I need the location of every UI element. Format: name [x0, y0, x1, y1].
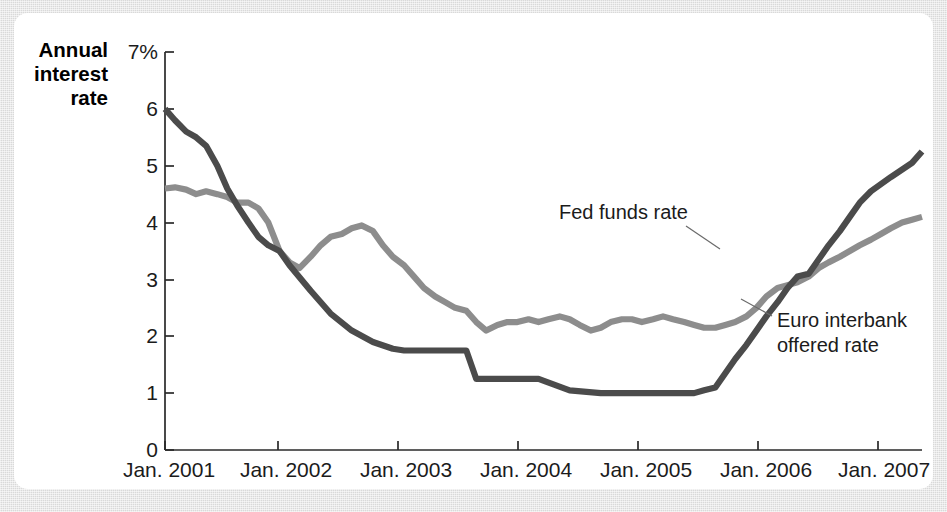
annotation-euro-interbank-line-2: offered rate: [777, 334, 879, 356]
x-tick-label-2004: Jan. 2004: [480, 458, 573, 481]
x-tick-label-2007: Jan. 2007: [838, 458, 930, 481]
y-tick-label-3: 3: [146, 268, 158, 291]
y-tick-label-4: 4: [146, 211, 158, 234]
y-axis-tick-labels: 7% 6 5 4 3 2 1 0: [128, 40, 159, 461]
y-tick-label-6: 6: [146, 97, 158, 120]
y-tick-label-7: 7%: [128, 40, 158, 63]
y-axis-title-line-3: rate: [70, 86, 108, 109]
annotation-euro-interbank-line-1: Euro interbank: [777, 309, 908, 331]
x-tick-label-2003: Jan. 2003: [360, 458, 452, 481]
y-tick-label-5: 5: [146, 154, 158, 177]
chart-card: Annual interest rate 7% 6 5 4: [14, 13, 933, 489]
x-tick-label-2006: Jan. 2006: [720, 458, 812, 481]
y-axis-title-line-2: interest: [34, 62, 108, 85]
y-tick-label-2: 2: [146, 324, 158, 347]
y-axis-title-line-1: Annual: [39, 38, 108, 61]
interest-rate-line-chart: Annual interest rate 7% 6 5 4: [14, 13, 933, 489]
y-tick-label-1: 1: [146, 381, 158, 404]
figure-root: Annual interest rate 7% 6 5 4: [0, 0, 947, 512]
x-tick-label-2001: Jan. 2001: [123, 458, 215, 481]
x-tick-label-2002: Jan. 2002: [240, 458, 332, 481]
annotation-fed-funds-rate: Fed funds rate: [559, 201, 688, 223]
leader-line-fed-funds-rate: [686, 226, 720, 249]
x-axis-tick-labels: Jan. 2001 Jan. 2002 Jan. 2003 Jan. 2004 …: [123, 458, 930, 481]
x-tick-label-2005: Jan. 2005: [600, 458, 692, 481]
x-axis-ticks: [165, 441, 878, 450]
